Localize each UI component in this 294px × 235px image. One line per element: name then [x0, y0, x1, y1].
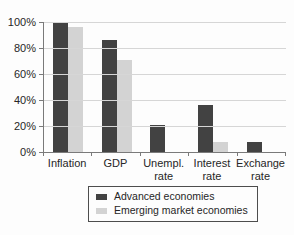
category-gdp — [92, 22, 140, 152]
category-exchange-rate — [238, 22, 286, 152]
legend-label-emerging: Emerging market economies — [114, 204, 248, 217]
legend-swatch-advanced — [96, 194, 107, 200]
bar-advanced-economies-interest-rate — [198, 105, 213, 152]
x-label-inflation: Inflation — [43, 157, 91, 182]
y-tick-label-100%: 100% — [0, 16, 36, 28]
x-axis-labels: InflationGDPUnempl. rateInterest rateExc… — [43, 157, 285, 182]
gridline-80% — [44, 48, 286, 49]
bar-chart: 0%20%40%60%80%100% InflationGDPUnempl. r… — [0, 0, 294, 235]
x-label-interest-rate: Interest rate — [188, 157, 236, 182]
gridline-60% — [44, 74, 286, 75]
category-unempl-rate — [141, 22, 189, 152]
x-label-unempl-rate: Unempl. rate — [140, 157, 188, 182]
category-interest-rate — [189, 22, 237, 152]
bar-advanced-economies-gdp — [102, 40, 117, 152]
gridline-100% — [44, 22, 286, 23]
x-tick-mark — [188, 153, 189, 156]
bar-advanced-economies-exchange-rate — [247, 142, 262, 152]
bars-container — [44, 22, 286, 152]
gridline-40% — [44, 100, 286, 101]
bar-emerging-market-economies-interest-rate — [213, 142, 228, 152]
gridline-20% — [44, 126, 286, 127]
legend-row-emerging: Emerging market economies — [96, 204, 248, 217]
x-label-exchange-rate: Exchange rate — [236, 157, 285, 182]
x-tick-mark — [285, 153, 286, 156]
legend-label-advanced: Advanced economies — [114, 190, 214, 203]
legend: Advanced economies Emerging market econo… — [88, 186, 258, 222]
x-tick-mark — [140, 153, 141, 156]
bar-advanced-economies-inflation — [53, 22, 68, 152]
bar-emerging-market-economies-inflation — [68, 27, 83, 152]
y-tick-label-0%: 0% — [0, 146, 36, 158]
category-inflation — [44, 22, 92, 152]
plot-area — [43, 22, 286, 153]
x-label-gdp: GDP — [91, 157, 139, 182]
x-tick-mark — [43, 153, 44, 156]
x-tick-mark — [91, 153, 92, 156]
bar-advanced-economies-unempl-rate — [150, 125, 165, 152]
legend-swatch-emerging — [96, 208, 107, 214]
y-tick-label-20%: 20% — [0, 120, 36, 132]
y-tick-label-60%: 60% — [0, 68, 36, 80]
y-tick-label-80%: 80% — [0, 42, 36, 54]
legend-row-advanced: Advanced economies — [96, 190, 248, 203]
x-tick-mark — [237, 153, 238, 156]
y-tick-label-40%: 40% — [0, 94, 36, 106]
